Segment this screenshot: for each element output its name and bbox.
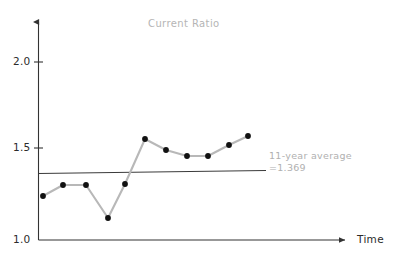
x-axis-label: Time <box>357 233 384 245</box>
data-point <box>184 153 190 159</box>
data-point <box>163 147 169 153</box>
data-point <box>122 181 128 187</box>
average-reference-line <box>39 171 267 174</box>
data-point <box>226 142 232 148</box>
average-annotation-label: 11-year average <box>269 150 352 162</box>
average-annotation-value: =1.369 <box>269 162 306 174</box>
series-line-current-ratio <box>43 136 248 218</box>
chart-title: Current Ratio <box>148 18 220 29</box>
chart-canvas <box>0 0 396 264</box>
chart-container: Current Ratio 2.0 1.5 1.0 Time 11-year a… <box>0 0 396 264</box>
data-point <box>142 136 148 142</box>
data-point <box>105 215 111 221</box>
data-point <box>245 133 251 139</box>
data-point <box>40 193 46 199</box>
data-point <box>60 182 66 188</box>
y-tick-label-2.0: 2.0 <box>13 55 30 67</box>
y-tick-label-1.0: 1.0 <box>13 233 30 245</box>
data-point <box>83 182 89 188</box>
data-point <box>205 153 211 159</box>
y-tick-label-1.5: 1.5 <box>13 141 30 153</box>
